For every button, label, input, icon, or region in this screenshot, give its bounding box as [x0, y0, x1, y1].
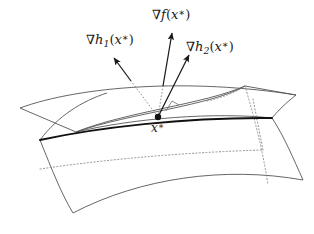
nabla-symbol-f: ∇ — [152, 7, 161, 22]
hidden-back-bottom-edge — [40, 150, 263, 169]
surface-sheet-lower — [40, 93, 303, 213]
hidden-back-right-arc — [245, 86, 268, 185]
star-superscript-h2: ∗ — [222, 39, 229, 50]
label-x-star: x∗ — [151, 121, 164, 134]
variable-x-h1: x — [114, 32, 121, 47]
paren-close-h1: ) — [129, 32, 134, 47]
upper-sheet-left-edge — [20, 108, 76, 132]
variable-x-star: x — [151, 121, 158, 135]
lower-sheet-right-arc — [272, 118, 303, 180]
hidden-edges-dotted — [40, 86, 268, 185]
paren-close-f: ) — [185, 7, 190, 22]
label-grad-h2: ∇h2(x∗) — [186, 40, 234, 55]
hidden-back-right-vertical — [253, 99, 263, 150]
diagram-canvas — [0, 0, 314, 234]
lower-sheet-right-upper-arc — [272, 95, 296, 118]
arrow-grad-f — [163, 33, 172, 86]
nabla-symbol-h2: ∇ — [186, 39, 195, 54]
paren-close-h2: ) — [229, 39, 234, 54]
upper-sheet-front-edge — [20, 86, 296, 108]
label-grad-f: ∇f(x∗) — [152, 8, 190, 21]
variable-x-h2: x — [214, 39, 221, 54]
lagrange-multiplier-diagram: ∇f(x∗) ∇h1(x∗) ∇h2(x∗) x∗ — [0, 0, 314, 234]
arrow-grad-h1 — [114, 58, 131, 81]
star-superscript-h1: ∗ — [122, 32, 129, 43]
star-superscript-x: ∗ — [158, 120, 164, 131]
label-grad-h1: ∇h1(x∗) — [86, 33, 134, 48]
lower-sheet-left-arc — [40, 140, 73, 213]
lower-sheet-bottom-arc — [73, 174, 303, 213]
nabla-symbol-h1: ∇ — [86, 32, 95, 47]
surface-sheet-upper-second — [76, 86, 272, 132]
upper-sheet-right-edge — [245, 86, 296, 95]
